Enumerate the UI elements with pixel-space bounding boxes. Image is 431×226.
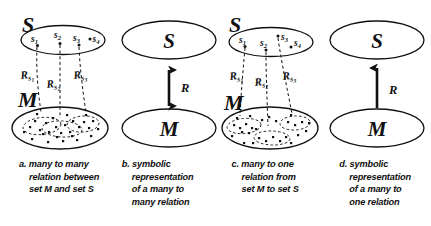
panel-a-m-points (23, 113, 99, 143)
panel-c-region-1 (226, 117, 261, 135)
panel-b-set-m-label: M (159, 117, 180, 141)
panel-d-relation-label: R (388, 83, 397, 97)
panel-a-region-3 (66, 115, 99, 133)
panel-b-relation-label: R (180, 81, 189, 95)
panel-c-relation-label-3: Rs3 (281, 68, 297, 85)
panel-c-point-s3 (277, 35, 280, 38)
figure-captions: a. many to many relation between set M a… (0, 158, 431, 226)
panel-d-set-s-label: S (371, 29, 383, 53)
panel-a-region-2 (42, 120, 83, 138)
caption-a-line-1: a. many to many (19, 158, 99, 171)
panel-c-set-m-ellipse (222, 107, 318, 149)
caption-d: d. symbolic representation of a many to … (323, 158, 431, 226)
caption-a: a. many to many relation between set M a… (0, 158, 108, 226)
caption-d-line-4: one relation (339, 196, 411, 209)
caption-b-line-1: b. symbolic (122, 158, 194, 171)
panel-c-label-s1: s1 (238, 35, 246, 46)
panel-a-label-s2: s2 (53, 30, 62, 41)
panel-c-label-s4: s4 (293, 38, 302, 49)
set-relation-figure: S s1 s2 s3 s4 Rs1 Rs2 Rs3 M (0, 0, 431, 226)
panel-a-relation-label-3: Rs3 (72, 67, 88, 84)
panel-a-label-s3: s3 (72, 33, 81, 44)
panel-c-label-s2: s2 (259, 38, 268, 49)
panel-a-art: S s1 s2 s3 s4 Rs1 Rs2 Rs3 M (12, 12, 108, 149)
panel-a-label-s4: s4 (92, 34, 101, 45)
panel-c-set-s-label: S (229, 12, 241, 37)
panel-d-set-m-label: M (367, 117, 388, 141)
caption-c-line-2: relation from (232, 171, 299, 184)
caption-c: c. many to one relation from set M to se… (216, 158, 324, 226)
panel-c-point-s4 (290, 46, 293, 49)
caption-a-line-2: relation between (19, 171, 99, 184)
caption-d-line-1: d. symbolic (339, 158, 411, 171)
panel-d-art: S R M (330, 21, 424, 147)
caption-c-line-1: c. many to one (232, 158, 299, 171)
caption-b-line-2: representation (122, 171, 194, 184)
panel-a-relation-label-1: Rs1 (19, 67, 35, 84)
caption-a-line-3: set M and set S (19, 183, 99, 196)
panel-a-label-s1: s1 (30, 34, 38, 45)
panel-c-label-s3: s3 (280, 32, 289, 43)
panel-c-art: S s1 s2 s3 s4 Rs1 Rs2 Rs3 M (222, 12, 318, 149)
panel-c-region-3 (280, 115, 311, 131)
panel-c-relation-label-1: Rs1 (228, 68, 244, 85)
panel-b-art: S R M (122, 21, 216, 147)
panel-b-set-s-label: S (163, 29, 175, 53)
panel-a-point-s4 (89, 38, 92, 41)
panel-a-relation-label-2: Rs2 (45, 76, 61, 93)
caption-b: b. symbolic representation of a many to … (108, 158, 216, 226)
caption-c-line-3: set M to set S (232, 183, 299, 196)
panel-a-point-s2 (59, 42, 62, 45)
panel-a-set-m-label: M (17, 87, 39, 112)
caption-b-line-4: many relation (122, 196, 194, 209)
caption-d-line-2: representation (339, 171, 411, 184)
caption-b-line-3: of a many to (122, 183, 194, 196)
caption-d-line-3: of a many to (339, 183, 411, 196)
